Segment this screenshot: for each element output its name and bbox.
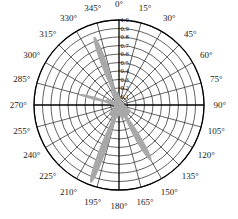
angle-label-90deg: 90° (213, 100, 226, 110)
angle-label-225deg: 225° (39, 171, 57, 181)
angle-label-165deg: 165° (137, 197, 155, 207)
polar-plot-canvas: 0°15°30°45°60°75°90°105°120°135°150°165°… (0, 0, 238, 219)
radial-label-0.9: 0.9 (121, 25, 130, 32)
polar-chart: 0°15°30°45°60°75°90°105°120°135°150°165°… (0, 0, 238, 219)
angle-label-255deg: 255° (13, 126, 31, 136)
angle-label-105deg: 105° (208, 126, 226, 136)
angle-label-60deg: 60° (200, 50, 213, 60)
angle-label-135deg: 135° (182, 171, 200, 181)
angle-label-210deg: 210° (60, 187, 78, 197)
radial-label-0.1: 0.1 (121, 93, 129, 100)
angle-label-45deg: 45° (184, 29, 197, 39)
angle-label-150deg: 150° (161, 187, 179, 197)
angle-label-270deg: 270° (10, 100, 28, 110)
radial-label-0.8: 0.8 (121, 33, 130, 40)
radial-label-0.2: 0.2 (121, 84, 129, 91)
radial-label-0.3: 0.3 (121, 76, 130, 83)
radial-label-1.0: 1.0 (121, 16, 130, 23)
radial-label-0.7: 0.7 (121, 42, 130, 49)
angle-label-15deg: 15° (139, 3, 152, 13)
angle-label-120deg: 120° (198, 150, 216, 160)
radial-tick-labels: 1.00.90.80.70.60.50.40.30.20.1 (121, 16, 130, 100)
angle-label-330deg: 330° (60, 13, 78, 23)
angle-label-300deg: 300° (23, 50, 41, 60)
angle-label-75deg: 75° (210, 74, 223, 84)
angle-label-345deg: 345° (84, 3, 102, 13)
radial-label-0.5: 0.5 (121, 59, 130, 66)
angle-label-180deg: 180° (110, 201, 128, 211)
angle-label-30deg: 30° (163, 13, 176, 23)
radial-label-0.4: 0.4 (121, 67, 130, 74)
angle-label-240deg: 240° (23, 150, 41, 160)
angle-label-315deg: 315° (39, 29, 57, 39)
angle-label-195deg: 195° (84, 197, 102, 207)
radial-label-0.6: 0.6 (121, 50, 130, 57)
angle-label-0deg: 0° (115, 0, 124, 9)
angle-label-285deg: 285° (13, 74, 31, 84)
